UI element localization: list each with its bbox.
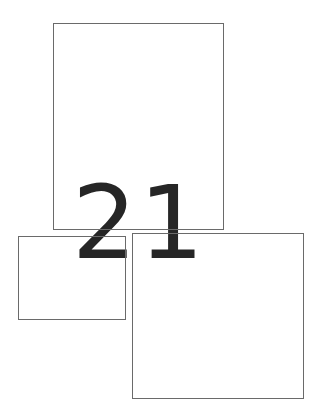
bottom-right-rectangle (132, 233, 304, 399)
diagram-canvas: 21 (0, 0, 322, 419)
top-rectangle (53, 23, 224, 230)
bottom-left-rectangle (18, 236, 126, 320)
